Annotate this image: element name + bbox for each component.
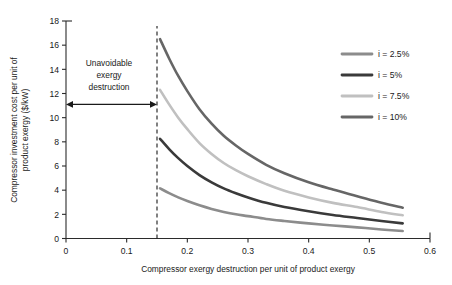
annotation-line-1: Unavoidable: [86, 58, 133, 68]
y-tick-label: 10: [49, 113, 59, 123]
legend-label: i = 2.5%: [378, 49, 410, 59]
x-tick-label: 0.2: [181, 246, 193, 256]
x-tick-label: 0.3: [242, 246, 254, 256]
exergy-cost-chart: 024681012141618 00.10.20.30.40.50.6 Comp…: [0, 0, 452, 285]
x-tick-label: 0.5: [363, 246, 375, 256]
y-tick-label: 0: [54, 234, 59, 244]
y-tick-label: 6: [54, 161, 59, 171]
x-tick-label: 0: [64, 246, 69, 256]
annotation-line-3: destruction: [89, 82, 130, 92]
legend-label: i = 5%: [378, 70, 402, 80]
legend-label: i = 7.5%: [378, 91, 410, 101]
x-axis-title: Compressor exergy destruction per unit o…: [141, 264, 355, 274]
y-tick-label: 2: [54, 210, 59, 220]
x-tick-label: 0.4: [303, 246, 315, 256]
x-tick-label: 0.1: [121, 246, 133, 256]
y-axis-title-line1: Compressor investment cost per unit of: [9, 56, 19, 202]
y-tick-label: 18: [49, 16, 59, 26]
y-tick-label: 12: [49, 89, 59, 99]
y-axis-title-line2: product exergy ($/kW): [20, 89, 30, 172]
y-tick-label: 16: [49, 40, 59, 50]
y-tick-label: 14: [49, 65, 59, 75]
y-tick-label: 4: [54, 185, 59, 195]
x-tick-label: 0.6: [424, 246, 436, 256]
chart-background: [0, 0, 452, 285]
legend-label: i = 10%: [378, 112, 407, 122]
y-tick-label: 8: [54, 137, 59, 147]
annotation-line-2: exergy: [96, 70, 122, 80]
